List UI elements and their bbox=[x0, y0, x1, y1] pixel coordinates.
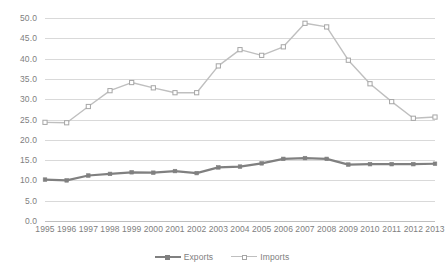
x-axis-tick-label: 1999 bbox=[122, 224, 141, 234]
data-point-marker bbox=[282, 157, 286, 161]
data-point-marker bbox=[173, 169, 177, 173]
axis-baseline bbox=[45, 221, 435, 222]
data-point-marker bbox=[281, 45, 285, 49]
data-point-marker bbox=[433, 162, 437, 166]
data-point-marker bbox=[303, 21, 307, 25]
data-point-marker bbox=[238, 165, 242, 169]
data-point-marker bbox=[195, 171, 199, 175]
data-point-marker bbox=[346, 58, 350, 62]
x-axis-tick-label: 2003 bbox=[209, 224, 228, 234]
plot-area bbox=[45, 18, 435, 221]
series-exports bbox=[43, 156, 437, 182]
data-point-marker bbox=[87, 174, 91, 178]
legend-item-exports[interactable]: Exports bbox=[155, 253, 214, 262]
data-point-marker bbox=[173, 91, 177, 95]
data-point-marker bbox=[260, 162, 264, 166]
data-point-marker bbox=[217, 166, 221, 170]
data-point-marker bbox=[368, 162, 372, 166]
x-axis-tick-label: 2001 bbox=[165, 224, 184, 234]
y-axis-tick-label: 35.0 bbox=[20, 75, 37, 84]
legend-swatch-icon bbox=[231, 253, 257, 262]
x-axis-tick-label: 2007 bbox=[295, 224, 314, 234]
legend-swatch-icon bbox=[155, 253, 181, 262]
data-point-marker bbox=[130, 170, 134, 174]
legend-label: Exports bbox=[184, 253, 214, 262]
x-axis-tick-label: 2004 bbox=[230, 224, 249, 234]
data-point-marker bbox=[43, 120, 47, 124]
x-axis-tick-label: 1997 bbox=[79, 224, 98, 234]
x-axis-tick-label: 2000 bbox=[144, 224, 163, 234]
x-axis-tick-label: 2005 bbox=[252, 224, 271, 234]
data-point-marker bbox=[238, 48, 242, 52]
legend-item-imports[interactable]: Imports bbox=[231, 253, 289, 262]
data-point-marker bbox=[108, 172, 112, 176]
x-axis-tick-label: 2012 bbox=[404, 224, 423, 234]
data-point-marker bbox=[347, 163, 351, 167]
data-point-marker bbox=[303, 156, 307, 160]
y-axis-tick-label: 50.0 bbox=[20, 14, 37, 23]
data-point-marker bbox=[43, 178, 47, 182]
x-axis-tick-label: 2013 bbox=[425, 224, 444, 234]
data-point-marker bbox=[433, 115, 437, 119]
series-line bbox=[45, 23, 435, 122]
series-line bbox=[45, 158, 435, 180]
y-axis-tick-label: 20.0 bbox=[20, 136, 37, 145]
x-axis-tick-label: 1998 bbox=[100, 224, 119, 234]
x-axis-tick-label: 1996 bbox=[57, 224, 76, 234]
data-point-marker bbox=[108, 89, 112, 93]
data-point-marker bbox=[152, 171, 156, 175]
x-axis-tick-label: 2011 bbox=[382, 224, 401, 234]
y-axis-tick-label: 25.0 bbox=[20, 115, 37, 124]
data-point-marker bbox=[368, 82, 372, 86]
data-point-marker bbox=[390, 162, 394, 166]
data-point-marker bbox=[411, 116, 415, 120]
y-axis-tick-label: 40.0 bbox=[20, 54, 37, 63]
data-point-marker bbox=[65, 121, 69, 125]
y-axis-tick-label: 45.0 bbox=[20, 34, 37, 43]
data-point-marker bbox=[325, 25, 329, 29]
y-axis: 50.045.040.035.030.025.020.015.010.05.00… bbox=[0, 18, 41, 221]
y-axis-tick-label: 30.0 bbox=[20, 95, 37, 104]
x-axis: 1995199619971998199920002001200220032004… bbox=[45, 224, 435, 238]
x-axis-tick-label: 1995 bbox=[35, 224, 54, 234]
data-point-marker bbox=[195, 91, 199, 95]
data-point-marker bbox=[412, 162, 416, 166]
y-axis-tick-label: 5.0 bbox=[25, 196, 37, 205]
x-axis-tick-label: 2008 bbox=[317, 224, 336, 234]
series-imports bbox=[43, 21, 437, 125]
x-axis-tick-label: 2002 bbox=[187, 224, 206, 234]
data-point-marker bbox=[86, 104, 90, 108]
series-layer bbox=[45, 18, 435, 221]
data-point-marker bbox=[130, 80, 134, 84]
data-point-marker bbox=[325, 157, 329, 161]
x-axis-tick-label: 2010 bbox=[360, 224, 379, 234]
data-point-marker bbox=[390, 100, 394, 104]
data-point-marker bbox=[65, 179, 69, 183]
y-axis-tick-label: 15.0 bbox=[20, 156, 37, 165]
data-point-marker bbox=[216, 64, 220, 68]
x-axis-tick-label: 2006 bbox=[274, 224, 293, 234]
legend-label: Imports bbox=[260, 253, 289, 262]
chart-legend: ExportsImports bbox=[0, 248, 444, 266]
y-axis-tick-label: 10.0 bbox=[20, 176, 37, 185]
data-point-marker bbox=[151, 86, 155, 90]
x-axis-tick-label: 2009 bbox=[339, 224, 358, 234]
data-point-marker bbox=[260, 53, 264, 57]
